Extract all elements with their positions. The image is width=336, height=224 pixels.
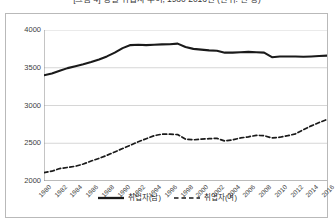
legend-swatch-dashed-icon [174, 194, 200, 202]
y-tick-label: 3000 [24, 102, 41, 110]
y-tick-label: 2500 [24, 140, 41, 148]
page-title: [그림 4] 성별 취업자 추이, 1980-2016년 (단위: 천 명) [0, 0, 334, 6]
chart-legend: 취업자(남)취업자(여) [6, 194, 329, 202]
chart-frame: 20002500300035004000 1980198219841986198… [5, 13, 328, 218]
legend-entry-2[interactable]: 취업자(여) [174, 194, 237, 202]
legend-label: 취업자(남) [128, 194, 161, 202]
y-tick-label: 3500 [24, 64, 41, 72]
legend-label: 취업자(여) [204, 194, 237, 202]
series-line-2 [44, 119, 327, 172]
series-line-1 [44, 44, 327, 76]
legend-swatch-solid-icon [98, 194, 124, 202]
chart-title-strip: [그림 4] 성별 취업자 추이, 1980-2016년 (단위: 천 명) [0, 0, 334, 6]
y-tick-label: 4000 [24, 26, 41, 34]
series-lines [44, 30, 327, 181]
y-tick-label: 2000 [24, 177, 41, 185]
plot-area: 20002500300035004000 1980198219841986198… [44, 30, 327, 181]
legend-entry-1[interactable]: 취업자(남) [98, 194, 161, 202]
